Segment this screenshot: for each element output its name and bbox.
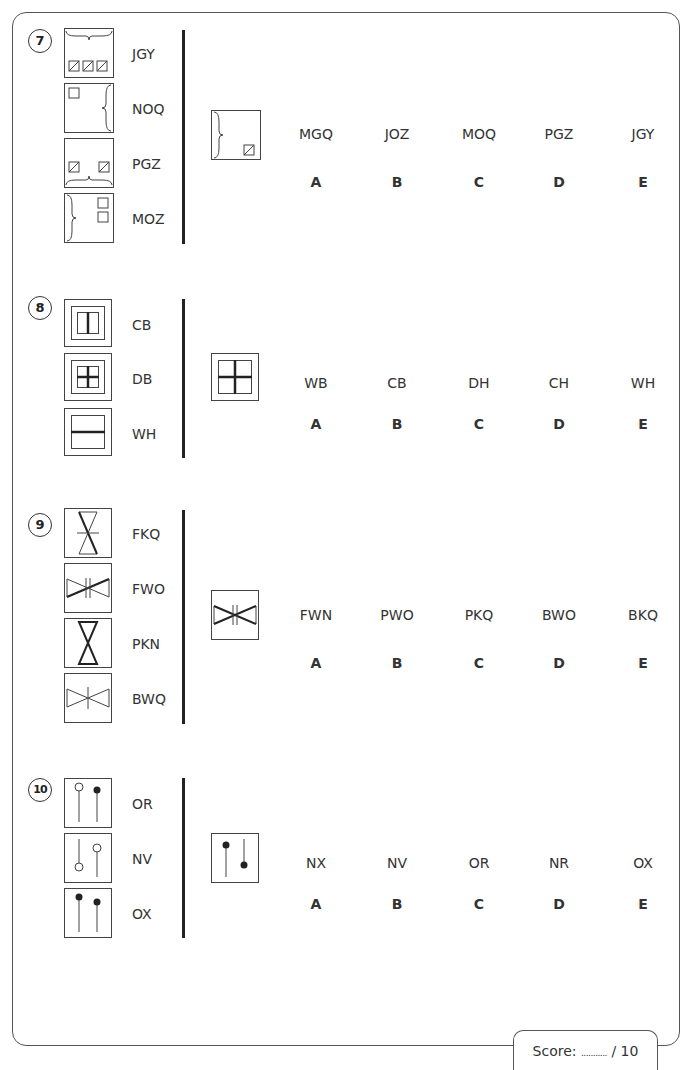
option-code: PKN: [132, 636, 160, 652]
answer-letter[interactable]: B: [367, 655, 427, 671]
framed-cross-small-icon: [64, 353, 112, 401]
option-code: JGY: [132, 46, 155, 62]
answer-letter[interactable]: D: [529, 896, 589, 912]
option-code: FKQ: [132, 526, 160, 542]
answer-letter[interactable]: A: [286, 655, 346, 671]
answer-choice[interactable]: PGZ: [529, 126, 589, 142]
option-code: DB: [132, 371, 152, 387]
answer-letter[interactable]: E: [613, 896, 673, 912]
pins-filled-top-filled-bottom-icon: [211, 833, 259, 883]
option-code: MOZ: [132, 211, 165, 227]
option-code: PGZ: [132, 156, 161, 172]
bottom-brace-two-hatched-squares-icon: [64, 138, 114, 188]
answer-choice[interactable]: NV: [367, 855, 427, 871]
question-number: 10: [28, 778, 52, 802]
divider: [182, 30, 185, 244]
horizontal-bowtie-thin-cross-icon: [64, 673, 112, 723]
top-brace-three-hatched-squares-icon: [64, 28, 114, 78]
left-brace-one-hatched-square-icon: [211, 110, 261, 160]
answer-choice[interactable]: JOZ: [367, 126, 427, 142]
answer-letter[interactable]: A: [286, 416, 346, 432]
question-number: 7: [28, 29, 52, 53]
answer-choice[interactable]: WH: [613, 375, 673, 391]
option-code: WH: [132, 426, 156, 442]
answer-choice[interactable]: MOQ: [449, 126, 509, 142]
answer-letter[interactable]: C: [449, 655, 509, 671]
answer-letter[interactable]: D: [529, 416, 589, 432]
option-code: NV: [132, 851, 152, 867]
answer-letter[interactable]: B: [367, 174, 427, 190]
pins-filled-top-filled-top-icon: [64, 888, 112, 938]
answer-letter[interactable]: E: [613, 655, 673, 671]
divider: [182, 778, 185, 938]
score-blank[interactable]: ...........: [581, 1048, 607, 1058]
answer-letter[interactable]: C: [449, 174, 509, 190]
question-number: 9: [28, 513, 52, 537]
answer-choice[interactable]: NX: [286, 855, 346, 871]
question-number: 8: [28, 296, 52, 320]
framed-horizontal-split-icon: [64, 408, 112, 456]
answer-letter[interactable]: C: [449, 416, 509, 432]
horizontal-bowtie-thick-double-bar-icon: [64, 563, 112, 613]
answer-choice[interactable]: PKQ: [449, 607, 509, 623]
vertical-hourglass-thick-icon: [64, 618, 112, 668]
pins-open-top-filled-top-icon: [64, 778, 112, 828]
option-code: CB: [132, 317, 151, 333]
option-code: NOQ: [132, 101, 165, 117]
score-label: Score:: [533, 1043, 577, 1059]
answer-choice[interactable]: MGQ: [286, 126, 346, 142]
answer-letter[interactable]: B: [367, 416, 427, 432]
answer-letter[interactable]: C: [449, 896, 509, 912]
answer-letter[interactable]: E: [613, 416, 673, 432]
framed-vertical-split-icon: [64, 299, 112, 347]
answer-choice[interactable]: OR: [449, 855, 509, 871]
answer-letter[interactable]: B: [367, 896, 427, 912]
answer-letter[interactable]: E: [613, 174, 673, 190]
answer-choice[interactable]: WB: [286, 375, 346, 391]
score-total: / 10: [611, 1043, 638, 1059]
answer-choice[interactable]: DH: [449, 375, 509, 391]
answer-letter[interactable]: D: [529, 174, 589, 190]
answer-choice[interactable]: FWN: [286, 607, 346, 623]
option-code: OR: [132, 796, 153, 812]
vertical-hourglass-thin-cross-icon: [64, 508, 112, 558]
pins-open-bottom-open-top-icon: [64, 833, 112, 883]
answer-choice[interactable]: OX: [613, 855, 673, 871]
answer-choice[interactable]: BKQ: [613, 607, 673, 623]
divider: [182, 510, 185, 724]
divider: [182, 299, 185, 458]
answer-choice[interactable]: PWO: [367, 607, 427, 623]
answer-choice[interactable]: NR: [529, 855, 589, 871]
answer-choice[interactable]: CH: [529, 375, 589, 391]
option-code: OX: [132, 906, 152, 922]
answer-choice[interactable]: CB: [367, 375, 427, 391]
answer-letter[interactable]: A: [286, 174, 346, 190]
answer-letter[interactable]: A: [286, 896, 346, 912]
score-box: Score: ........... / 10: [513, 1030, 658, 1070]
option-code: BWQ: [132, 691, 166, 707]
option-code: FWO: [132, 581, 165, 597]
right-brace-one-square-icon: [64, 83, 114, 133]
answer-choice[interactable]: BWO: [529, 607, 589, 623]
left-brace-two-squares-icon: [64, 193, 114, 243]
answer-letter[interactable]: D: [529, 655, 589, 671]
horizontal-bowtie-thick-double-bar-icon: [211, 590, 259, 640]
framed-cross-large-icon: [211, 353, 259, 401]
answer-choice[interactable]: JGY: [613, 126, 673, 142]
